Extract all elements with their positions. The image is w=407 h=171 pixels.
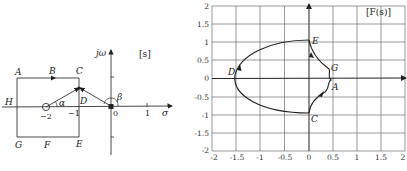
svg-text:0: 0 xyxy=(204,74,209,83)
f-plane-chart: E D G A C [F(s)] 2 1.5 1 0.5 0 -0.5 -1 -… xyxy=(195,2,406,162)
point-g: G xyxy=(331,63,338,73)
alpha-arc xyxy=(56,102,58,108)
label-d: D xyxy=(79,96,87,106)
label-g: G xyxy=(15,140,22,150)
svg-text:2: 2 xyxy=(204,2,209,11)
svg-text:-1: -1 xyxy=(202,111,209,120)
label-b: B xyxy=(48,66,56,76)
point-d: D xyxy=(227,67,235,77)
svg-text:-1.5: -1.5 xyxy=(230,153,245,162)
label-h: H xyxy=(4,97,13,107)
x-tick-labels: -2 -1.5 -1 -0.5 0 0.5 1 1.5 2 xyxy=(210,153,405,162)
contour-rectangle xyxy=(17,78,79,137)
label-jomega: jω xyxy=(94,48,107,58)
figure-canvas: A B C D E F G H α β −2 −1 0 1 σ jω [s] xyxy=(0,0,407,171)
svg-text:1.5: 1.5 xyxy=(197,20,209,29)
svg-text:2: 2 xyxy=(401,153,406,162)
direction-arrow xyxy=(51,76,56,81)
label-alpha: α xyxy=(59,98,65,108)
svg-text:-1: -1 xyxy=(256,153,263,162)
real-axis xyxy=(2,106,172,107)
svg-text:1.5: 1.5 xyxy=(375,153,387,162)
label-c: C xyxy=(76,66,83,76)
label-sigma: σ xyxy=(162,108,169,118)
y-tick-labels: 2 1.5 1 0.5 0 -0.5 -1 -1.5 -2 xyxy=(195,2,210,155)
label-f: F xyxy=(43,140,51,150)
point-c: C xyxy=(311,114,318,124)
contour-left-arc xyxy=(235,40,309,113)
tick-one: 1 xyxy=(145,109,150,118)
s-plane-title: [s] xyxy=(139,49,151,59)
svg-text:0.5: 0.5 xyxy=(197,56,209,65)
tick-minus2: −2 xyxy=(40,112,52,121)
svg-text:-0.5: -0.5 xyxy=(195,93,210,102)
svg-text:-2: -2 xyxy=(202,146,210,155)
label-a: A xyxy=(14,67,22,77)
svg-text:-2: -2 xyxy=(210,153,218,162)
label-beta: β xyxy=(116,92,122,102)
f-plane-title: [F(s)] xyxy=(366,7,391,17)
label-e: E xyxy=(75,139,83,149)
point-a: A xyxy=(331,82,339,92)
tick-zero: 0 xyxy=(113,109,118,118)
point-e: E xyxy=(311,36,319,46)
svg-text:0: 0 xyxy=(307,153,312,162)
arrow-a xyxy=(318,91,324,97)
svg-text:-1.5: -1.5 xyxy=(195,129,210,138)
svg-text:-0.5: -0.5 xyxy=(278,153,293,162)
svg-text:1: 1 xyxy=(204,38,209,47)
svg-text:1: 1 xyxy=(355,153,360,162)
svg-text:0.5: 0.5 xyxy=(327,153,339,162)
tick-minus1: −1 xyxy=(68,109,80,118)
s-plane-diagram: A B C D E F G H α β −2 −1 0 1 σ jω [s] xyxy=(2,48,172,155)
contour-right-branch xyxy=(309,40,331,113)
